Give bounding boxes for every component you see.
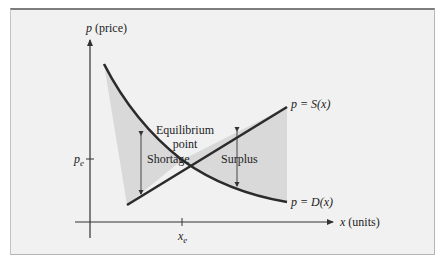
surplus-label: Surplus <box>221 152 258 166</box>
shortage-label: Shortage <box>147 152 190 166</box>
demand-label-fn: D <box>310 195 320 209</box>
x-axis-label: x (units) <box>339 215 380 229</box>
x-axis-unit: (units) <box>345 215 379 229</box>
xe-label-sub: e <box>183 235 187 245</box>
xe-label: xe <box>177 229 187 245</box>
supply-demand-diagram: p (price) x (units) p = S(x) p = D(x) Eq… <box>0 0 446 266</box>
supply-label: p = S(x) <box>290 97 330 111</box>
pe-label: pe <box>73 152 84 168</box>
equilibrium-label-line2: point <box>173 137 198 151</box>
demand-label-arg: (x) <box>320 195 333 209</box>
pe-label-base: p <box>73 152 80 166</box>
supply-label-arg: (x) <box>317 97 330 111</box>
y-axis-label: p (price) <box>85 21 127 35</box>
demand-label: p = D(x) <box>290 195 333 209</box>
supply-label-prefix: p = <box>290 97 311 111</box>
pe-label-sub: e <box>80 158 84 168</box>
y-axis-var: p <box>85 21 92 35</box>
demand-label-prefix: p = <box>290 195 311 209</box>
y-axis-unit: (price) <box>92 21 127 35</box>
equilibrium-label-line1: Equilibrium <box>156 123 215 137</box>
